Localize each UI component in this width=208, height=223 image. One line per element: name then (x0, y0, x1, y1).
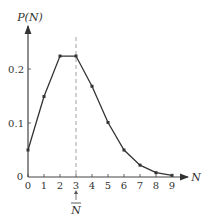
data-point (139, 164, 142, 167)
x-tick-label: 5 (105, 180, 111, 191)
x-tick-label: 6 (121, 180, 127, 191)
x-tick-label: 3 (73, 180, 79, 191)
data-point (59, 55, 62, 58)
data-point (155, 171, 158, 174)
mean-label: N (70, 204, 81, 217)
data-point (107, 121, 110, 124)
y-tick-label: 0 (17, 171, 23, 182)
x-tick-label: 7 (137, 180, 143, 191)
data-series (27, 55, 174, 177)
tick-labels: 01234567890.10.20 (8, 64, 175, 191)
x-tick-label: 9 (169, 180, 175, 191)
x-tick-label: 4 (89, 180, 95, 191)
x-tick-label: 0 (25, 180, 31, 191)
x-tick-label: 2 (57, 180, 63, 191)
y-tick-label: 0.1 (8, 118, 24, 129)
data-point (91, 85, 94, 88)
poisson-chart: 01234567890.10.20 P(N) N N (0, 0, 208, 223)
data-point (27, 149, 30, 152)
series-line (28, 56, 172, 175)
mean-annotation: N (70, 190, 81, 217)
axes (28, 26, 188, 177)
data-point (75, 55, 78, 58)
y-tick-label: 0.2 (8, 64, 24, 75)
x-tick-label: 8 (153, 180, 159, 191)
x-tick-label: 1 (41, 180, 47, 191)
data-point (123, 149, 126, 152)
x-axis-label: N (190, 171, 201, 184)
data-point (43, 95, 46, 98)
y-axis-label: P(N) (16, 11, 43, 24)
